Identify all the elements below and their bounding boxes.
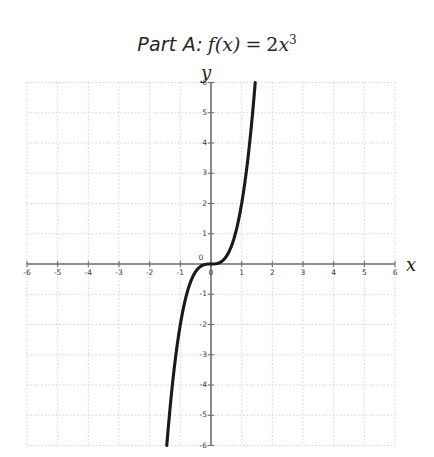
coordinate-plane [0,0,434,457]
y-tick-label: -1 [191,289,207,298]
origin-label: 0 [193,253,209,262]
x-tick-label: 2 [264,268,280,277]
graph-figure: Part A:f(x)=2x3 y x -6-5-4-3-2-11234560 … [0,0,434,457]
x-tick-label: 5 [356,268,372,277]
x-tick-label: -5 [50,268,66,277]
x-tick-label: -3 [111,268,127,277]
x-tick-label: -1 [172,268,188,277]
y-tick-label: 4 [191,138,207,147]
y-tick-label: 3 [191,168,207,177]
y-tick-label: 6 [191,78,207,87]
y-tick-label: -2 [191,320,207,329]
plot-svg [0,0,434,457]
x-tick-label: -6 [19,268,35,277]
y-tick-label: -5 [191,410,207,419]
y-tick-label: -3 [191,350,207,359]
y-tick-label: -4 [191,380,207,389]
x-origin-label: 0 [203,268,219,277]
x-tick-label: 6 [387,268,403,277]
y-tick-label: -6 [191,441,207,450]
x-tick-label: -2 [142,268,158,277]
x-tick-label: 1 [234,268,250,277]
x-tick-label: 4 [326,268,342,277]
x-tick-label: 3 [295,268,311,277]
x-tick-label: -4 [80,268,96,277]
y-tick-label: 1 [191,229,207,238]
y-tick-label: 2 [191,199,207,208]
y-tick-label: 5 [191,108,207,117]
x-axis-label: x [406,254,416,275]
